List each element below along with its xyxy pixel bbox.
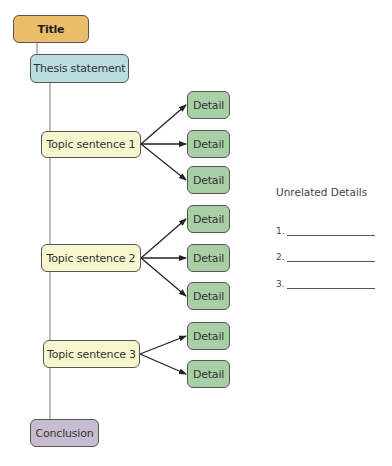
detail-box: Detail xyxy=(187,322,230,350)
detail-box: Detail xyxy=(187,205,230,233)
detail-label: Detail xyxy=(193,290,224,303)
thesis-label: Thesis statement xyxy=(34,62,126,75)
unrelated-detail-row-1: 1. xyxy=(276,226,375,236)
blank-line[interactable] xyxy=(287,279,375,289)
topic-sentence-3-box: Topic sentence 3 xyxy=(43,340,140,368)
item-number: 3. xyxy=(276,279,285,289)
title-box: Title xyxy=(13,15,89,43)
detail-box: Detail xyxy=(187,166,230,194)
detail-box: Detail xyxy=(187,130,230,158)
detail-box: Detail xyxy=(187,360,230,388)
topic-sentence-1-box: Topic sentence 1 xyxy=(41,131,141,158)
detail-label: Detail xyxy=(193,138,224,151)
unrelated-detail-row-2: 2. xyxy=(276,252,375,262)
topic-label: Topic sentence 2 xyxy=(47,252,136,265)
item-number: 1. xyxy=(276,226,285,236)
detail-label: Detail xyxy=(193,252,224,265)
topic-label: Topic sentence 3 xyxy=(47,348,136,361)
thesis-box: Thesis statement xyxy=(30,54,129,83)
detail-box: Detail xyxy=(187,282,230,310)
title-label: Title xyxy=(38,23,65,36)
topic-label: Topic sentence 1 xyxy=(47,138,136,151)
detail-label: Detail xyxy=(193,330,224,343)
item-number: 2. xyxy=(276,252,285,262)
detail-label: Detail xyxy=(193,368,224,381)
detail-label: Detail xyxy=(193,174,224,187)
detail-box: Detail xyxy=(187,91,230,119)
unrelated-detail-row-3: 3. xyxy=(276,279,375,289)
detail-label: Detail xyxy=(193,213,224,226)
detail-label: Detail xyxy=(193,99,224,112)
conclusion-box: Conclusion xyxy=(30,419,99,447)
unrelated-details-heading: Unrelated Details xyxy=(276,186,367,198)
blank-line[interactable] xyxy=(287,252,375,262)
blank-line[interactable] xyxy=(287,226,375,236)
conclusion-label: Conclusion xyxy=(36,427,94,440)
topic-sentence-2-box: Topic sentence 2 xyxy=(41,244,141,272)
detail-box: Detail xyxy=(187,244,230,272)
